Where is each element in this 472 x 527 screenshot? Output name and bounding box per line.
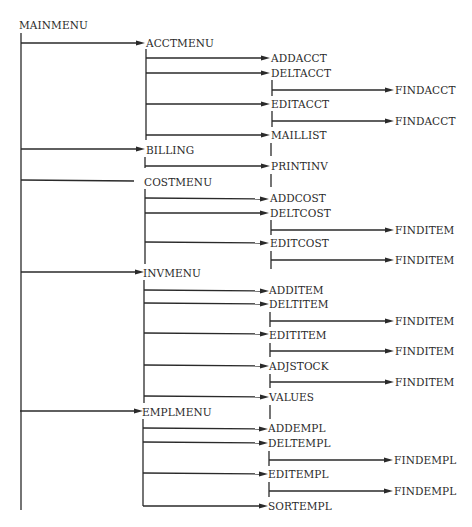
node-mainmenu: MAINMENU xyxy=(19,19,88,31)
node-sortempl: SORTEMPL xyxy=(268,500,332,512)
arrow-icon xyxy=(384,458,393,463)
edge-empl-editempl xyxy=(143,473,260,474)
edge-empl-deltempl xyxy=(143,442,260,443)
arrow-icon xyxy=(385,88,394,93)
node-editacct-findacct: FINDACCT xyxy=(395,115,456,127)
node-printinv: PRINTINV xyxy=(271,160,328,172)
node-editcost: EDITCOST xyxy=(270,237,329,249)
arrow-icon xyxy=(385,258,394,263)
node-billing: BILLING xyxy=(146,144,194,156)
node-costmenu: COSTMENU xyxy=(144,176,212,188)
edge-cost-editcost xyxy=(145,242,261,243)
edge-empl-addempl xyxy=(143,428,260,429)
node-edititem: EDITITEM xyxy=(269,329,327,341)
arrow-icon xyxy=(385,380,394,385)
node-editempl: EDITEMPL xyxy=(268,468,329,480)
arrow-icon xyxy=(260,302,269,307)
node-editcost-finditem: FINDITEM xyxy=(395,254,454,266)
arrow-icon xyxy=(136,147,145,152)
node-deltitem-finditem: FINDITEM xyxy=(395,315,454,327)
node-deltempl: DELTEMPL xyxy=(268,437,330,449)
arrow-icon xyxy=(261,71,270,76)
arrow-icon xyxy=(259,441,268,446)
arrow-icon xyxy=(260,241,269,246)
node-editacct: EDITACCT xyxy=(271,98,329,110)
edge-cost-addcost xyxy=(145,198,261,199)
node-deltacct-findacct: FINDACCT xyxy=(395,84,456,96)
node-adjstock-finditem: FINDITEM xyxy=(395,376,454,388)
node-acctmenu: ACCTMENU xyxy=(146,37,214,49)
arrow-icon xyxy=(260,289,269,294)
node-deltempl-findempl: FINDEMPL xyxy=(394,454,456,466)
arrow-icon xyxy=(259,472,268,477)
arrow-icon xyxy=(259,504,268,509)
node-values: VALUES xyxy=(269,391,314,403)
arrow-icon xyxy=(261,56,270,61)
arrow-icon xyxy=(261,102,270,107)
arrow-icon xyxy=(260,395,269,400)
node-maillist: MAILLIST xyxy=(271,129,327,141)
edge-inv-additem xyxy=(144,290,261,291)
edge-inv-values xyxy=(144,396,261,397)
arrow-icon xyxy=(260,197,269,202)
node-edititem-finditem: FINDITEM xyxy=(395,345,454,357)
arrow-icon xyxy=(260,211,269,216)
node-addacct: ADDACCT xyxy=(271,52,327,64)
edge-inv-deltitem xyxy=(144,303,261,304)
node-deltacct: DELTACCT xyxy=(271,67,331,79)
arrow-icon xyxy=(384,489,393,494)
arrow-icon xyxy=(261,164,270,169)
arrow-icon xyxy=(260,364,269,369)
arrow-icon xyxy=(260,332,269,337)
edge-main-costmenu xyxy=(21,180,134,181)
arrow-icon xyxy=(385,119,394,124)
node-deltcost: DELTCOST xyxy=(270,207,331,219)
node-invmenu: INVMENU xyxy=(143,267,201,279)
node-additem: ADDITEM xyxy=(269,284,324,296)
edge-inv-adjstock xyxy=(144,365,261,366)
node-adjstock: ADJSTOCK xyxy=(269,360,329,372)
arrow-icon xyxy=(259,427,268,432)
node-addcost: ADDCOST xyxy=(270,192,326,204)
node-editempl-findempl: FINDEMPL xyxy=(394,485,456,497)
edge-inv-edititem xyxy=(144,333,261,334)
node-deltcost-finditem: FINDITEM xyxy=(395,224,454,236)
arrow-icon xyxy=(136,41,145,46)
arrow-icon xyxy=(261,133,270,138)
arrow-icon xyxy=(385,319,394,324)
node-emplmenu: EMPLMENU xyxy=(142,406,212,418)
node-addempl: ADDEMPL xyxy=(268,422,326,434)
node-deltitem: DELTITEM xyxy=(269,298,329,310)
arrow-icon xyxy=(385,228,394,233)
arrow-icon xyxy=(385,349,394,354)
